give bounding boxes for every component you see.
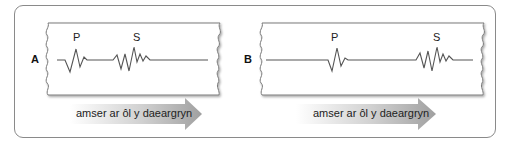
p-wave-label-a: P — [73, 31, 80, 43]
p-wave-label-b: P — [331, 31, 338, 43]
seismogram-strip-b — [260, 23, 484, 95]
s-wave-label-b: S — [433, 31, 440, 43]
s-wave-label-a: S — [133, 31, 140, 43]
time-arrow-label-b: amser ar ôl y daeargryn — [313, 107, 429, 119]
panel-label-a: A — [31, 53, 39, 65]
seismogram-diagram — [0, 0, 507, 145]
time-arrow-label-a: amser ar ôl y daeargryn — [76, 107, 192, 119]
panel-label-b: B — [244, 53, 252, 65]
